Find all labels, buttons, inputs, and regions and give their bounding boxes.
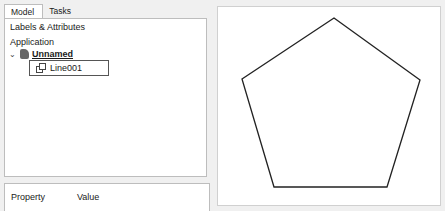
application-label: Application (10, 37, 54, 47)
item-label: Line001 (50, 63, 82, 73)
pentagon-shape[interactable] (218, 7, 442, 207)
shape-icon (36, 63, 46, 73)
property-panel: Property Value (4, 183, 210, 211)
tab-tasks[interactable]: Tasks (43, 4, 79, 18)
tree-item-line001[interactable]: Line001 (29, 60, 109, 76)
model-tree-panel: Labels & Attributes Application ⌄ Unname… (4, 18, 207, 177)
panel-tabs: Model Tasks (4, 4, 79, 18)
tree-item-unnamed[interactable]: ⌄ Unnamed (9, 49, 73, 59)
section-label: Labels & Attributes (10, 22, 85, 32)
3d-viewport[interactable] (217, 6, 441, 206)
column-header-value: Value (77, 192, 99, 202)
chevron-down-icon[interactable]: ⌄ (9, 50, 17, 59)
document-icon (20, 49, 29, 59)
document-label: Unnamed (32, 49, 73, 59)
tab-model[interactable]: Model (4, 4, 43, 19)
column-header-property: Property (11, 192, 45, 202)
